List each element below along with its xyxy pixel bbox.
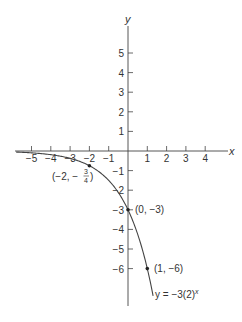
y-tick-label: −5 <box>113 244 125 255</box>
x-tick-label: 1 <box>145 153 151 164</box>
curve-label: y = −3(2)x <box>155 288 199 300</box>
x-tick-label: −5 <box>26 153 38 164</box>
x-tick-label: 2 <box>164 153 170 164</box>
x-tick-label: 4 <box>202 153 208 164</box>
x-axis-label: x <box>228 145 235 157</box>
point-a-fraction: 3 4 <box>84 168 90 184</box>
y-tick-label: 4 <box>118 68 124 79</box>
x-tick-label: −1 <box>103 153 115 164</box>
y-tick-label: 2 <box>118 107 124 118</box>
x-tick-label: −2 <box>84 153 96 164</box>
exponential-graph: x y −5−4−3−2−11234 54321−1−2−3−4−5−6 (−2… <box>0 0 242 322</box>
y-tick-label: −1 <box>113 166 125 177</box>
point-a-label: (−2, − <box>52 171 78 182</box>
svg-text:3: 3 <box>84 168 88 175</box>
y-tick-label: −4 <box>113 224 125 235</box>
data-point <box>146 267 150 271</box>
data-point <box>88 164 92 168</box>
point-a-close: ) <box>90 171 93 182</box>
y-axis-label: y <box>124 13 132 25</box>
y-tick-label: 1 <box>118 126 124 137</box>
point-b-label: (0, −3) <box>135 204 164 215</box>
point-c-label: (1, −6) <box>154 263 183 274</box>
data-point <box>126 208 130 212</box>
y-tick-label: 5 <box>118 48 124 59</box>
svg-text:4: 4 <box>84 177 88 184</box>
y-ticks: 54321−1−2−3−4−5−6 <box>113 48 133 275</box>
y-tick-label: 3 <box>118 87 124 98</box>
y-tick-label: −6 <box>113 264 125 275</box>
y-tick-label: −3 <box>113 205 125 216</box>
x-tick-label: 3 <box>183 153 189 164</box>
